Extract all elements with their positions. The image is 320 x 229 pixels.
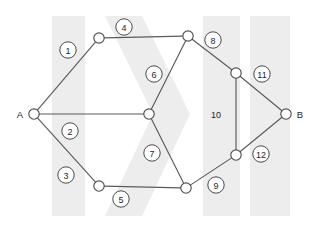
watermark-layer	[52, 16, 290, 216]
edge-label-e5: 5	[118, 195, 123, 205]
graph-svg: 123456789101112 AB	[0, 0, 320, 229]
diagram-canvas: 123456789101112 AB	[0, 0, 320, 229]
graph-node-D[interactable]	[183, 31, 193, 41]
graph-node-I[interactable]	[231, 150, 241, 160]
edge-label-e1: 1	[65, 46, 70, 56]
edge-label-e2: 2	[67, 127, 72, 137]
edge-label-e6: 6	[151, 70, 156, 80]
edge-label-e12: 12	[256, 150, 266, 160]
graph-node-B[interactable]	[281, 109, 291, 119]
graph-node-H[interactable]	[231, 68, 241, 78]
edge-label-e10: 10	[211, 110, 221, 120]
terminal-label-A: A	[17, 109, 24, 120]
graph-node-A[interactable]	[29, 109, 39, 119]
terminal-label-B: B	[297, 109, 303, 120]
edge-label-e3: 3	[63, 171, 68, 181]
graph-node-G[interactable]	[181, 183, 191, 193]
edge-label-e4: 4	[121, 23, 126, 33]
graph-node-F[interactable]	[94, 181, 104, 191]
edge-label-e11: 11	[257, 70, 266, 80]
graph-node-E[interactable]	[144, 109, 154, 119]
edge-label-e7: 7	[149, 149, 154, 159]
graph-node-C[interactable]	[94, 33, 104, 43]
edge-label-e9: 9	[213, 181, 218, 191]
edge-label-e8: 8	[210, 36, 215, 46]
